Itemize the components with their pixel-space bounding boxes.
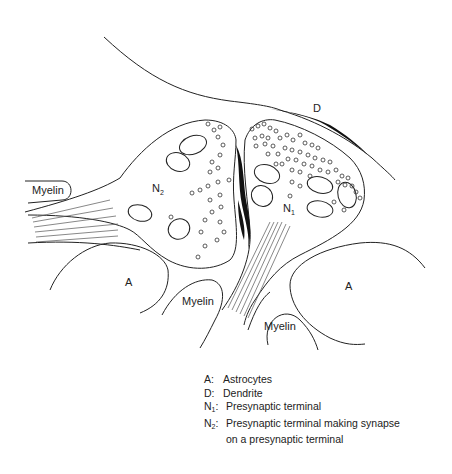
legend-item-astrocytes: A: Astrocytes [204,373,400,387]
label-n1: N1 [283,202,295,216]
legend: A: Astrocytes D: Dendrite N1: Presynapti… [204,373,400,447]
label-astrocyte-left: A [125,276,133,288]
legend-item-dendrite: D: Dendrite [204,387,400,401]
n1-axon-fibers [228,222,290,318]
label-n2: N2 [152,182,164,196]
label-myelin-center: Myelin [182,295,214,307]
legend-item-n2-continuation: on a presynaptic terminal [204,433,400,447]
dendrite-outline [104,37,395,180]
legend-item-n2: N2: Presynaptic terminal making synapse [204,417,400,434]
label-dendrite: D [313,102,321,114]
label-myelin-right: Myelin [264,320,296,332]
astrocyte-right-outline [290,242,425,344]
n1-terminal-outline [244,120,364,325]
label-astrocyte-right: A [345,280,353,292]
astrocyte-left-outline [50,243,168,313]
synaptic-density-top [270,109,368,155]
myelin-center-outline [162,280,223,348]
label-myelin-left: Myelin [32,184,64,196]
legend-item-n1: N1: Presynaptic terminal [204,400,400,417]
